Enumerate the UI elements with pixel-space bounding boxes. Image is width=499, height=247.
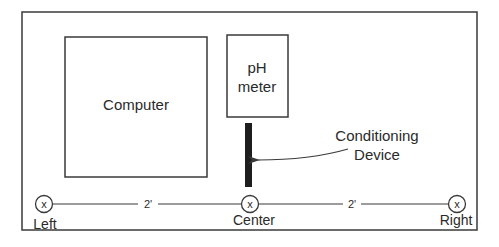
position-left-marker: x xyxy=(36,196,53,213)
position-center-marker: x xyxy=(242,196,259,213)
position-right-marker: x xyxy=(449,196,466,213)
position-right-x-icon: x xyxy=(454,198,460,210)
computer-label: Computer xyxy=(103,96,169,113)
distance-left-center: 2' xyxy=(144,198,152,210)
position-left-x-icon: x xyxy=(41,198,47,210)
conditioning-device-arrow xyxy=(258,149,348,160)
diagram-canvas: Computer pH meter Conditioning Device 2'… xyxy=(0,0,499,247)
position-center-x-icon: x xyxy=(247,198,253,210)
ph-meter-label-line2: meter xyxy=(238,78,276,95)
computer-box: Computer xyxy=(65,37,207,177)
conditioning-device-bar xyxy=(245,123,252,187)
distance-center-right: 2' xyxy=(348,198,356,210)
position-right-label: Right xyxy=(440,212,473,228)
ph-meter-label-line1: pH xyxy=(247,59,266,76)
conditioning-device-label-line2: Device xyxy=(354,146,400,163)
position-left-label: Left xyxy=(33,216,56,232)
conditioning-device-label-line1: Conditioning xyxy=(335,127,418,144)
ph-meter-box: pH meter xyxy=(227,35,288,117)
position-center-label: Center xyxy=(233,212,275,228)
